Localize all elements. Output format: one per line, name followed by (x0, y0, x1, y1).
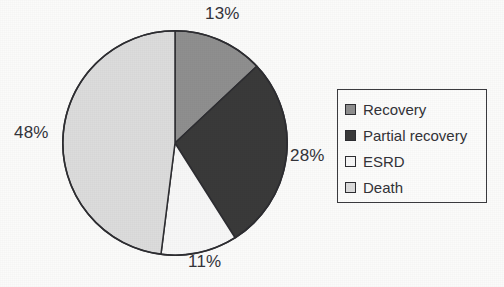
pie-chart-figure: 13% 28% 11% 48% Recovery Partial recover… (0, 0, 504, 287)
legend-swatch-esrd (345, 156, 356, 167)
slice-label-esrd: 11% (188, 252, 221, 272)
slice-label-partial-recovery: 28% (290, 146, 325, 166)
slice-label-death: 48% (14, 123, 49, 143)
legend-item-esrd: ESRD (345, 148, 486, 174)
pie-slice-death (63, 31, 175, 255)
legend-swatch-death (345, 182, 356, 193)
legend-item-death: Death (345, 174, 486, 200)
legend-label-recovery: Recovery (363, 102, 426, 117)
pie-chart (62, 30, 288, 256)
pie-svg (62, 30, 288, 256)
chart-legend: Recovery Partial recovery ESRD Death (337, 89, 487, 203)
legend-swatch-partial-recovery (345, 130, 356, 141)
legend-label-partial-recovery: Partial recovery (363, 128, 467, 143)
legend-item-recovery: Recovery (345, 96, 486, 122)
legend-label-esrd: ESRD (363, 154, 405, 169)
pie-slices (63, 31, 287, 255)
legend-item-partial-recovery: Partial recovery (345, 122, 486, 148)
slice-label-recovery: 13% (205, 4, 240, 24)
legend-swatch-recovery (345, 104, 356, 115)
legend-label-death: Death (363, 180, 403, 195)
